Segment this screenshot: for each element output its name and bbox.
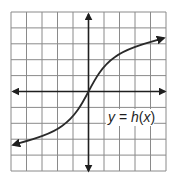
svg-text:y = h(x): y = h(x) xyxy=(107,109,155,125)
label-close: ) xyxy=(150,109,155,125)
label-func: h xyxy=(131,109,139,125)
label-equals: = xyxy=(115,109,131,125)
function-label: y = h(x) xyxy=(106,109,155,126)
function-graph: y = h(x) xyxy=(0,0,174,178)
